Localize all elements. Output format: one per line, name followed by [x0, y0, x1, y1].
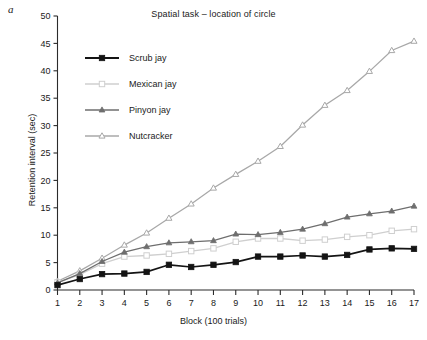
data-point-marker	[278, 254, 283, 259]
legend-entry-nutcracker[interactable]: Nutcracker	[85, 131, 173, 141]
x-tick-label: 7	[189, 298, 194, 308]
data-point-marker	[122, 254, 127, 259]
data-point-marker	[300, 238, 305, 243]
x-tick-label: 8	[211, 298, 216, 308]
x-tick-label: 16	[387, 298, 397, 308]
data-point-marker	[166, 262, 171, 267]
data-point-marker	[144, 253, 149, 258]
data-point-marker	[389, 228, 394, 233]
data-point-marker	[278, 236, 283, 241]
data-point-marker	[255, 254, 260, 259]
x-tick-label: 17	[409, 298, 419, 308]
series-nutcracker	[54, 38, 417, 283]
data-point-marker	[367, 247, 372, 252]
data-point-marker	[77, 276, 82, 281]
figure-container: a Spatial task – location of circle Rete…	[0, 0, 427, 340]
data-point-marker	[144, 230, 150, 235]
series-line	[58, 41, 415, 281]
y-tick-label: 30	[40, 121, 50, 131]
data-point-marker	[122, 271, 127, 276]
data-point-marker	[166, 251, 171, 256]
y-tick-label: 20	[40, 176, 50, 186]
data-point-marker	[300, 253, 305, 258]
x-tick-label: 4	[122, 298, 127, 308]
data-point-marker	[389, 246, 394, 251]
x-tick-label: 1	[55, 298, 60, 308]
y-tick-label: 45	[40, 39, 50, 49]
data-point-marker	[411, 226, 416, 231]
x-tick-label: 15	[364, 298, 374, 308]
data-point-marker	[255, 158, 261, 163]
y-tick-label: 40	[40, 66, 50, 76]
data-point-marker	[188, 264, 193, 269]
data-point-marker	[344, 252, 349, 257]
y-tick-label: 25	[40, 148, 50, 158]
data-point-marker	[344, 234, 349, 239]
data-point-marker	[55, 282, 60, 287]
data-point-marker	[99, 81, 104, 86]
data-point-marker	[188, 201, 194, 206]
y-tick-label: 15	[40, 203, 50, 213]
x-tick-label: 10	[253, 298, 263, 308]
x-tick-label: 5	[144, 298, 149, 308]
x-tick-label: 13	[320, 298, 330, 308]
legend-entry-mexican-jay[interactable]: Mexican jay	[85, 79, 177, 89]
legend-label: Pinyon jay	[129, 105, 171, 115]
x-tick-label: 9	[233, 298, 238, 308]
x-tick-label: 3	[100, 298, 105, 308]
data-point-marker	[99, 271, 104, 276]
data-point-marker	[211, 262, 216, 267]
x-tick-label: 11	[276, 298, 285, 308]
y-tick-label: 35	[40, 93, 50, 103]
x-tick-label: 6	[166, 298, 171, 308]
data-point-marker	[322, 237, 327, 242]
data-point-marker	[411, 203, 417, 208]
y-tick-label: 5	[45, 258, 50, 268]
data-point-marker	[322, 102, 328, 107]
legend-label: Mexican jay	[129, 79, 177, 89]
legend-entry-pinyon-jay[interactable]: Pinyon jay	[85, 105, 171, 115]
data-point-marker	[233, 239, 238, 244]
data-point-marker	[144, 269, 149, 274]
legend-label: Nutcracker	[129, 131, 173, 141]
legend-entry-scrub-jay[interactable]: Scrub jay	[85, 53, 167, 63]
x-tick-label: 2	[77, 298, 82, 308]
data-point-marker	[411, 38, 417, 43]
data-point-marker	[322, 254, 327, 259]
series-line	[58, 248, 415, 285]
data-point-marker	[188, 248, 193, 253]
x-tick-label: 12	[298, 298, 308, 308]
y-tick-label: 50	[40, 11, 50, 21]
data-point-marker	[233, 259, 238, 264]
x-tick-label: 14	[342, 298, 352, 308]
line-chart-plot: 0510152025303540455012345678910111213141…	[0, 0, 427, 340]
data-point-marker	[411, 246, 416, 251]
data-point-marker	[367, 233, 372, 238]
legend-label: Scrub jay	[129, 53, 167, 63]
series-scrub-jay	[55, 246, 417, 288]
data-point-marker	[211, 246, 216, 251]
y-tick-label: 10	[40, 230, 50, 240]
data-point-marker	[166, 215, 172, 220]
data-point-marker	[99, 55, 104, 60]
y-tick-label: 0	[45, 285, 50, 295]
